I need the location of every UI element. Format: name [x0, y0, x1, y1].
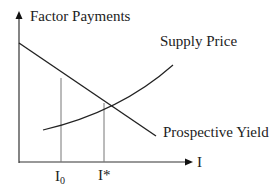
supply-price-label: Supply Price: [160, 33, 237, 49]
prospective-yield-line: [19, 43, 156, 136]
x-axis-arrow-icon: [185, 159, 193, 166]
prospective-yield-label: Prospective Yield: [163, 124, 269, 140]
y-axis: [16, 11, 23, 163]
supply-price-curve: [43, 65, 173, 130]
y-axis-label: Factor Payments: [30, 8, 131, 24]
istar-label: I*: [98, 167, 111, 183]
investment-diagram: Factor Payments Supply Price Prospective…: [0, 0, 273, 186]
x-axis: [19, 159, 193, 166]
i0-subscript: 0: [60, 175, 65, 186]
i0-label: I0: [55, 168, 65, 186]
y-axis-arrow-icon: [16, 11, 23, 19]
x-axis-label: I: [197, 154, 202, 170]
